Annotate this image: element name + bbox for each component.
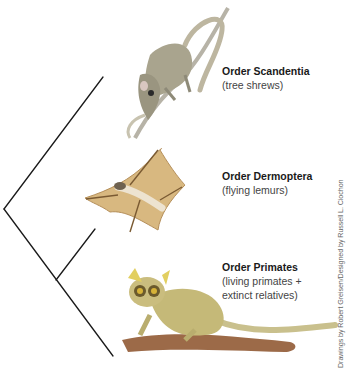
taxon-title: Order Dermoptera xyxy=(222,169,312,183)
taxon-common-name-line1: (living primates + xyxy=(222,274,302,288)
taxon-label-scandentia: Order Scandentia (tree shrews) xyxy=(222,64,310,92)
taxon-label-primates: Order Primates (living primates + extinc… xyxy=(222,260,302,302)
taxon-common-name: (tree shrews) xyxy=(222,78,310,92)
taxon-title: Order Primates xyxy=(222,260,302,274)
taxon-common-name: (flying lemurs) xyxy=(222,183,312,197)
phylogeny-figure: Order Scandentia (tree shrews) Order Der… xyxy=(0,0,352,370)
taxon-common-name-line2: extinct relatives) xyxy=(222,288,302,302)
illustration-credit: Drawings by Robert Greisen/Designed by R… xyxy=(336,180,345,368)
taxon-title: Order Scandentia xyxy=(222,64,310,78)
taxon-label-dermoptera: Order Dermoptera (flying lemurs) xyxy=(222,169,312,197)
